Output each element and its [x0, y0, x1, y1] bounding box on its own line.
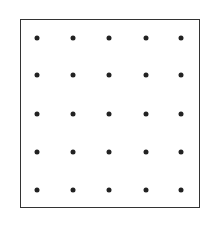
grid-dot [71, 112, 76, 117]
grid-dot [144, 36, 149, 41]
grid-dot [144, 73, 149, 78]
grid-dot [71, 150, 76, 155]
grid-dot [179, 73, 184, 78]
grid-dot [107, 36, 112, 41]
grid-dot [107, 73, 112, 78]
grid-dot [179, 112, 184, 117]
grid-dot [35, 188, 40, 193]
grid-dot [144, 112, 149, 117]
grid-dot [35, 36, 40, 41]
grid-dot [35, 73, 40, 78]
grid-dot [107, 188, 112, 193]
grid-dot [179, 150, 184, 155]
grid-dot [179, 36, 184, 41]
grid-dot [71, 36, 76, 41]
grid-dot [107, 112, 112, 117]
grid-dot [144, 188, 149, 193]
grid-dot [71, 188, 76, 193]
grid-dot [144, 150, 149, 155]
grid-dot [71, 73, 76, 78]
grid-dot [179, 188, 184, 193]
grid-dot [35, 112, 40, 117]
grid-dot [35, 150, 40, 155]
grid-dot [107, 150, 112, 155]
